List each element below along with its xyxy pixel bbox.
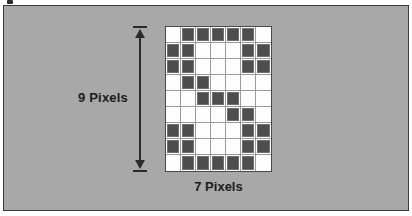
pixel-cell-on — [196, 155, 211, 171]
pixel-dot — [197, 140, 209, 153]
pixel-cell-off — [256, 27, 271, 43]
pixel-cell-off — [226, 139, 241, 155]
pixel-dot — [197, 156, 209, 170]
pixel-dot — [182, 44, 194, 57]
pixel-cell-off — [211, 75, 226, 91]
pixel-dot — [227, 124, 239, 137]
pixel-cell-on — [256, 123, 271, 139]
pixel-dot — [257, 108, 270, 121]
pixel-dot — [257, 156, 270, 170]
pixel-cell-on — [241, 59, 256, 75]
pixel-cell-on — [181, 155, 196, 171]
pixel-dot — [197, 44, 209, 57]
pixel-dot — [167, 60, 179, 73]
vertical-arrow-bottom-cap — [133, 170, 147, 172]
pixel-dot — [182, 76, 194, 89]
pixel-dot — [257, 60, 270, 73]
pixel-cell-on — [196, 75, 211, 91]
pixel-cell-on — [241, 123, 256, 139]
pixel-grid — [165, 26, 272, 172]
horizontal-dimension-label: 7 Pixels — [165, 179, 272, 195]
pixel-cell-on — [181, 59, 196, 75]
pixel-cell-on — [226, 91, 241, 107]
pixel-cell-off — [211, 107, 226, 123]
pixel-cell-on — [256, 139, 271, 155]
pixel-cell-on — [226, 27, 241, 43]
pixel-dot — [212, 156, 224, 170]
pixel-dot — [227, 108, 239, 121]
pixel-cell-on — [241, 27, 256, 43]
pixel-cell-on — [196, 91, 211, 107]
pixel-dot — [242, 108, 254, 121]
pixel-dot — [197, 124, 209, 137]
pixel-dot — [242, 44, 254, 57]
pixel-cell-off — [256, 91, 271, 107]
pixel-cell-on — [181, 75, 196, 91]
pixel-cell-off — [166, 27, 181, 43]
vertical-arrow-shaft — [139, 32, 141, 166]
pixel-cell-on — [196, 27, 211, 43]
pixel-cell-off — [166, 91, 181, 107]
pixel-cell-on — [166, 59, 181, 75]
pixel-dot — [212, 124, 224, 137]
pixel-dot — [257, 124, 270, 137]
horizontal-dimension-arrow: 7 Pixels — [165, 179, 272, 195]
pixel-dot — [167, 28, 179, 41]
pixel-dot — [212, 60, 224, 73]
pixel-cell-on — [256, 59, 271, 75]
pixel-cell-off — [181, 107, 196, 123]
pixel-dot — [167, 124, 179, 137]
pixel-dot — [242, 28, 254, 41]
pixel-cell-off — [166, 107, 181, 123]
pixel-dot — [227, 140, 239, 153]
pixel-dot — [167, 76, 179, 89]
pixel-dot — [242, 124, 254, 137]
pixel-dot — [182, 156, 194, 170]
pixel-dot — [242, 76, 254, 89]
pixel-cell-on — [166, 43, 181, 59]
pixel-dot — [242, 92, 254, 105]
pixel-cell-off — [211, 59, 226, 75]
pixel-cell-off — [196, 43, 211, 59]
pixel-dot — [257, 140, 270, 153]
pixel-dot — [257, 44, 270, 57]
pixel-cell-off — [196, 59, 211, 75]
pixel-cell-on — [166, 139, 181, 155]
arrow-down-icon — [135, 160, 145, 169]
pixel-dot — [227, 28, 239, 41]
pixel-cell-off — [256, 107, 271, 123]
pixel-dot — [167, 92, 179, 105]
pixel-cell-on — [241, 139, 256, 155]
pixel-cell-on — [181, 123, 196, 139]
pixel-dot — [242, 156, 254, 170]
pixel-dot — [257, 76, 270, 89]
pixel-dot — [167, 108, 179, 121]
pixel-dot — [227, 76, 239, 89]
pixel-dot — [197, 76, 209, 89]
pixel-dot — [197, 92, 209, 105]
pixel-cell-off — [256, 155, 271, 171]
page-edge-artifact — [7, 0, 13, 4]
pixel-cell-on — [241, 155, 256, 171]
pixel-cell-on — [181, 27, 196, 43]
pixel-cell-on — [241, 107, 256, 123]
pixel-dot — [182, 140, 194, 153]
pixel-cell-on — [256, 43, 271, 59]
pixel-cell-on — [211, 27, 226, 43]
pixel-cell-off — [196, 139, 211, 155]
pixel-dot — [212, 76, 224, 89]
vertical-dimension-arrow — [133, 26, 147, 172]
pixel-dot — [257, 28, 270, 41]
pixel-cell-on — [211, 155, 226, 171]
pixel-cell-off — [241, 75, 256, 91]
pixel-dot — [242, 60, 254, 73]
pixel-dot — [182, 124, 194, 137]
pixel-cell-off — [241, 91, 256, 107]
pixel-dot — [227, 156, 239, 170]
pixel-cell-on — [211, 91, 226, 107]
pixel-cell-on — [241, 43, 256, 59]
pixel-dot — [167, 140, 179, 153]
pixel-dot — [212, 44, 224, 57]
pixel-cell-on — [226, 107, 241, 123]
vertical-arrow-top-cap — [133, 26, 147, 28]
